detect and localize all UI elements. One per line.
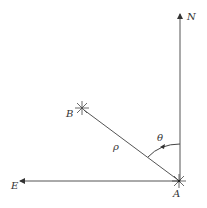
rho-label: ρ [112,141,119,152]
point-a-label: A [172,188,180,199]
point-b-label: B [65,108,73,119]
east-label: E [10,180,19,191]
north-label: N [186,11,197,22]
bearing-diagram: N E ρ B A θ [0,0,207,208]
star-b-icon [75,101,89,115]
theta-label: θ [157,132,163,143]
